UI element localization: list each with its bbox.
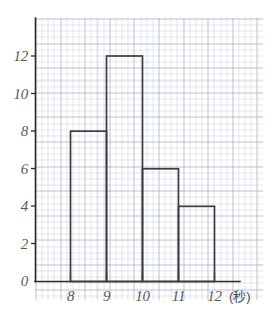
plot-area [0, 0, 272, 318]
y-tick-label-0: 0 [12, 274, 28, 289]
bar-8-9 [71, 131, 107, 281]
histogram-chart: 0 2 4 6 8 10 12 8 9 10 11 12 (秒) [0, 0, 272, 318]
x-tick-label-11: 11 [167, 289, 191, 304]
x-tick-label-9: 9 [97, 289, 117, 304]
histogram-bars [71, 56, 215, 282]
bar-10-11 [143, 169, 179, 282]
x-axis-unit-label: (秒) [229, 290, 251, 303]
y-tick-label-6: 6 [12, 161, 28, 176]
y-axis-ticks [31, 56, 35, 244]
y-tick-label-12: 12 [8, 49, 28, 64]
bar-11-12 [179, 206, 215, 281]
y-tick-label-2: 2 [12, 236, 28, 251]
bar-9-10 [107, 56, 143, 282]
x-tick-label-8: 8 [61, 289, 81, 304]
x-tick-label-12: 12 [203, 289, 227, 304]
y-tick-label-10: 10 [8, 86, 28, 101]
y-tick-label-4: 4 [12, 199, 28, 214]
y-tick-label-8: 8 [12, 124, 28, 139]
x-tick-label-10: 10 [131, 289, 155, 304]
